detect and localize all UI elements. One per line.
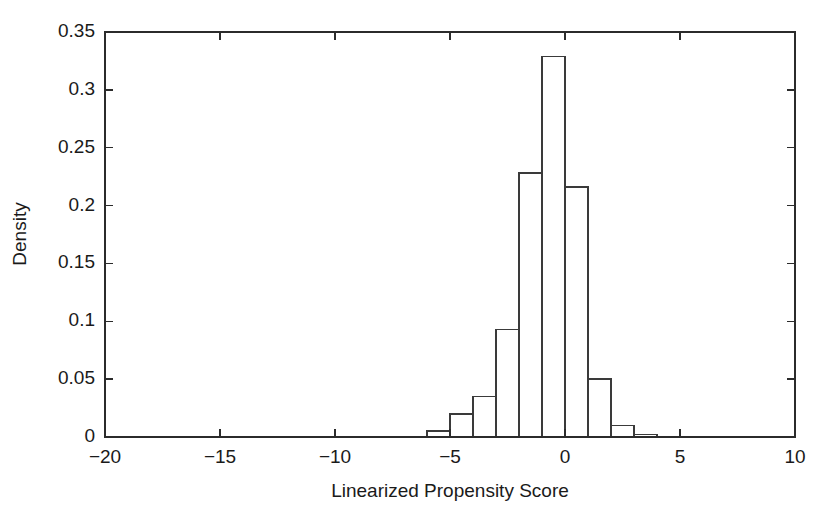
x-tick-label: 5 <box>675 446 686 467</box>
y-tick-label: 0.35 <box>58 20 95 41</box>
y-tick-label: 0.2 <box>69 194 95 215</box>
density-histogram-plot: −20−15−10−50510 00.050.10.150.20.250.30.… <box>0 0 824 517</box>
x-tick-label: −10 <box>319 446 351 467</box>
y-tick-label: 0 <box>84 425 95 446</box>
x-axis-title: Linearized Propensity Score <box>331 480 569 501</box>
y-axis-title: Density <box>9 202 30 266</box>
histogram-bar <box>519 173 542 437</box>
histogram-figure: −20−15−10−50510 00.050.10.150.20.250.30.… <box>0 0 824 517</box>
x-tick-label: 0 <box>560 446 571 467</box>
y-tick-label: 0.15 <box>58 251 95 272</box>
y-tick-label: 0.1 <box>69 309 95 330</box>
histogram-bar <box>588 379 611 437</box>
y-axis-ticks: 00.050.10.150.20.250.30.35 <box>58 20 795 446</box>
histogram-bars <box>427 56 657 437</box>
histogram-bar <box>611 425 634 437</box>
x-axis-ticks: −20−15−10−50510 <box>89 32 806 467</box>
x-tick-label: −5 <box>439 446 461 467</box>
y-tick-label: 0.3 <box>69 78 95 99</box>
y-tick-label: 0.25 <box>58 136 95 157</box>
histogram-bar <box>450 414 473 437</box>
axis-frame <box>105 32 795 437</box>
histogram-bar <box>496 329 519 437</box>
histogram-bar <box>542 56 565 437</box>
histogram-bar <box>427 431 450 437</box>
x-tick-label: −15 <box>204 446 236 467</box>
x-tick-label: −20 <box>89 446 121 467</box>
histogram-bar <box>473 397 496 438</box>
histogram-bar <box>565 187 588 437</box>
y-tick-label: 0.05 <box>58 367 95 388</box>
plot-border <box>105 32 795 437</box>
x-tick-label: 10 <box>784 446 805 467</box>
